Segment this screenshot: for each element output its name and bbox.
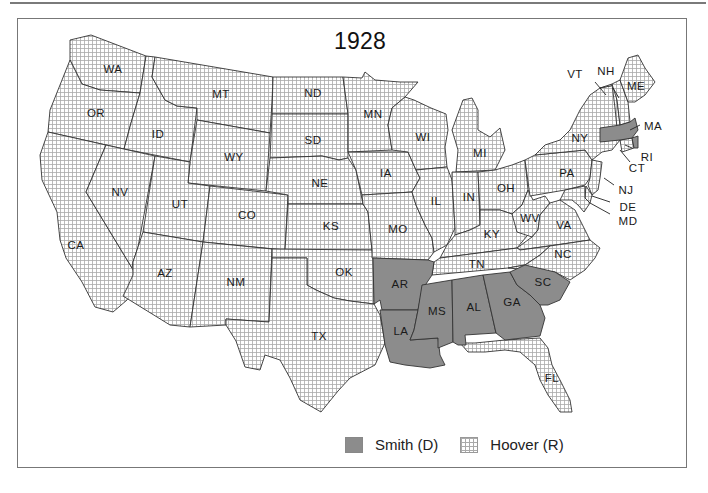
label-ne: NE <box>312 177 329 189</box>
label-id: ID <box>152 128 165 140</box>
label-ny: NY <box>572 132 589 144</box>
label-de: DE <box>620 201 637 213</box>
label-tx: TX <box>311 330 327 342</box>
state-in[interactable] <box>452 172 480 235</box>
label-ks: KS <box>323 220 339 232</box>
label-ia: IA <box>380 167 392 179</box>
label-ms: MS <box>428 305 446 317</box>
legend-item-hoover: Hoover (R) <box>460 436 563 453</box>
label-sc: SC <box>535 276 552 288</box>
legend-label-hoover: Hoover (R) <box>490 436 563 453</box>
label-ct: CT <box>629 162 645 174</box>
label-mn: MN <box>364 108 383 120</box>
label-fl: FL <box>545 372 560 384</box>
label-me: ME <box>627 80 645 92</box>
label-mi: MI <box>473 147 487 159</box>
state-mi[interactable] <box>452 98 505 172</box>
label-mt: MT <box>212 88 230 100</box>
label-ga: GA <box>503 296 521 308</box>
label-in: IN <box>463 191 476 203</box>
state-me[interactable] <box>620 55 655 102</box>
state-ny[interactable] <box>535 85 620 160</box>
label-il: IL <box>431 195 442 207</box>
label-ma: MA <box>644 120 662 132</box>
label-vt: VT <box>567 68 583 80</box>
label-wi: WI <box>415 131 430 143</box>
label-wv: WV <box>520 212 540 224</box>
label-sd: SD <box>305 134 322 146</box>
label-or: OR <box>87 107 105 119</box>
leader-nj <box>604 178 614 185</box>
label-nd: ND <box>304 87 322 99</box>
label-md: MD <box>619 215 638 227</box>
leader-ct <box>620 150 630 162</box>
label-nc: NC <box>554 248 572 260</box>
hoover-swatch-icon <box>460 437 478 453</box>
legend-item-smith: Smith (D) <box>345 436 438 453</box>
label-co: CO <box>238 209 256 221</box>
label-ok: OK <box>335 266 353 278</box>
leader-md <box>590 203 610 214</box>
label-nm: NM <box>227 276 246 288</box>
leader-de <box>592 196 610 202</box>
label-wa: WA <box>103 63 122 75</box>
label-ky: KY <box>484 228 500 240</box>
label-ca: CA <box>68 239 85 251</box>
label-ar: AR <box>392 278 409 290</box>
label-va: VA <box>556 219 572 231</box>
legend: Smith (D) Hoover (R) <box>345 436 586 453</box>
legend-label-smith: Smith (D) <box>375 436 438 453</box>
label-nh: NH <box>597 65 615 77</box>
label-tn: TN <box>469 258 485 270</box>
label-nj: NJ <box>618 184 633 196</box>
label-mo: MO <box>388 223 408 235</box>
label-pa: PA <box>559 167 575 179</box>
us-map: WA OR CA ID NV MT WY UT CO AZ NM ND SD N… <box>0 0 708 493</box>
label-al: AL <box>466 301 481 313</box>
map-title: 1928 <box>334 28 386 55</box>
label-wy: WY <box>224 151 244 163</box>
label-la: LA <box>393 325 408 337</box>
label-oh: OH <box>497 182 515 194</box>
smith-swatch-icon <box>345 437 363 453</box>
label-nv: NV <box>112 186 129 198</box>
label-az: AZ <box>157 267 173 279</box>
label-ut: UT <box>172 198 188 210</box>
